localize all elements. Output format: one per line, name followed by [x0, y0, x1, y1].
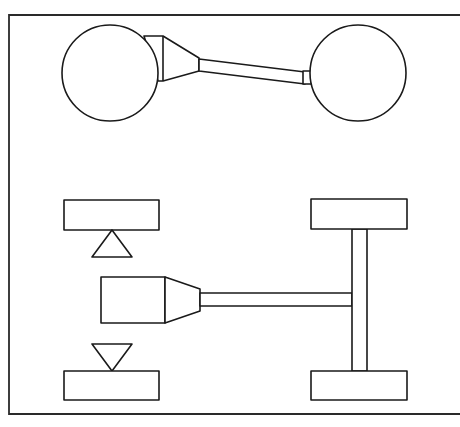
lower-triangle-support	[92, 344, 132, 371]
engine-body	[101, 277, 165, 323]
nozzle-taper	[165, 277, 200, 323]
top-left-circle	[62, 25, 158, 121]
upper-triangle-support	[92, 230, 132, 257]
top-right-circle	[310, 25, 406, 121]
drive-shaft	[200, 293, 352, 306]
top-view	[62, 25, 406, 121]
top-shaft	[199, 59, 305, 84]
bottom-view	[64, 199, 407, 400]
right-lower-block	[311, 371, 407, 400]
left-upper-block	[64, 200, 159, 230]
right-upper-block	[311, 199, 407, 229]
vertical-axle	[352, 229, 367, 371]
left-lower-block	[64, 371, 159, 400]
diagram-canvas	[0, 0, 460, 427]
